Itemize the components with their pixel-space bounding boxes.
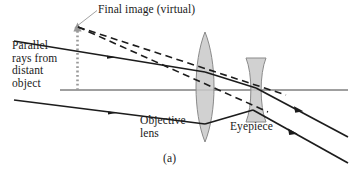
dashed-construction-line-lower	[78, 27, 268, 112]
telescope-ray-diagram-figure: Final image (virtual) Parallel rays from…	[0, 0, 352, 176]
objective-lens-label: Objective lens	[140, 114, 186, 139]
panel-caption: (a)	[163, 152, 176, 165]
exit-ray-lower	[253, 110, 348, 163]
objective-lens-glass	[196, 32, 214, 142]
final-image-label: Final image (virtual)	[98, 3, 195, 16]
final-image-leader-line	[75, 11, 98, 29]
parallel-rays-label: Parallel rays from distant object	[12, 39, 57, 89]
eyepiece-label: Eyepiece	[230, 120, 273, 133]
